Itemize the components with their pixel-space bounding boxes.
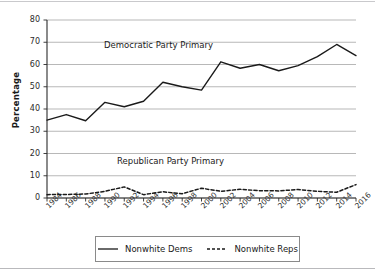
legend-item-dems[interactable]: Nonwhite Dems xyxy=(97,244,192,254)
legend-dashed-line-icon xyxy=(206,245,228,253)
legend-item-reps[interactable]: Nonwhite Reps xyxy=(206,244,298,254)
annotation-democratic: Democratic Party Primary xyxy=(104,40,213,50)
series-line-reps xyxy=(47,185,356,195)
chart-legend: Nonwhite Dems Nonwhite Reps xyxy=(95,236,300,262)
legend-solid-line-icon xyxy=(97,245,119,253)
chart-figure: Percentage 01020304050607080 19841986198… xyxy=(0,0,375,277)
annotation-republican: Republican Party Primary xyxy=(117,156,224,166)
legend-label-reps: Nonwhite Reps xyxy=(234,244,298,254)
legend-label-dems: Nonwhite Dems xyxy=(125,244,192,254)
data-series xyxy=(47,44,356,194)
